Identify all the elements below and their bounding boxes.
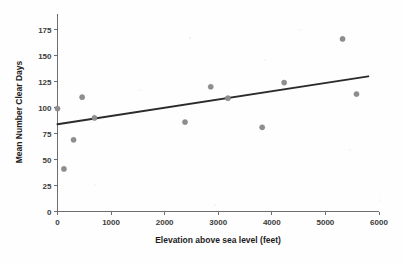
data-point [282,80,287,85]
y-tick-label: 0 [47,208,52,217]
scatter-plot-svg: 0255075100125150175 01000200030004000500… [0,0,404,265]
x-axis-title: Elevation above sea level (feet) [155,235,281,245]
data-point [92,115,97,120]
data-point [80,95,85,100]
x-tick-label: 6000 [370,218,388,227]
x-tick-label: 2000 [156,218,174,227]
y-axis-title: Mean Number Clear Days [14,60,24,163]
data-point [71,137,76,142]
x-tick-label: 5000 [317,218,335,227]
regression-trend-line [58,76,369,124]
y-tick-label: 175 [38,26,52,35]
background-speckles [94,29,380,205]
x-tick-label: 0 [55,218,60,227]
data-point [225,96,230,101]
y-tick-label: 50 [43,156,52,165]
data-point [340,36,345,41]
x-axis-ticks: 0100020003000400050006000 [55,212,388,227]
data-point-group [55,36,359,171]
data-point [55,106,60,111]
y-tick-label: 75 [43,130,52,139]
x-tick-label: 3000 [209,218,227,227]
axes [58,14,380,212]
data-point [61,166,66,171]
y-tick-label: 125 [38,78,52,87]
y-tick-label: 100 [38,104,52,113]
data-point [260,125,265,130]
x-tick-label: 1000 [102,218,120,227]
y-axis-ticks: 0255075100125150175 [38,26,57,217]
data-point [182,120,187,125]
data-point [354,91,359,96]
trend-line-group [58,76,369,124]
chart-figure: 0255075100125150175 01000200030004000500… [0,0,404,265]
data-point [208,84,213,89]
x-tick-label: 4000 [263,218,281,227]
y-tick-label: 25 [43,182,52,191]
y-tick-label: 150 [38,52,52,61]
